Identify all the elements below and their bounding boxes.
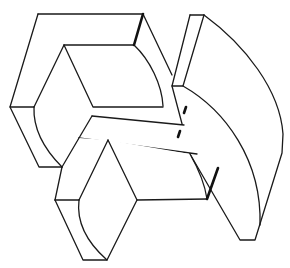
puzzle-diagram xyxy=(0,0,290,268)
right-quarter-cylinder-slab xyxy=(172,15,283,240)
